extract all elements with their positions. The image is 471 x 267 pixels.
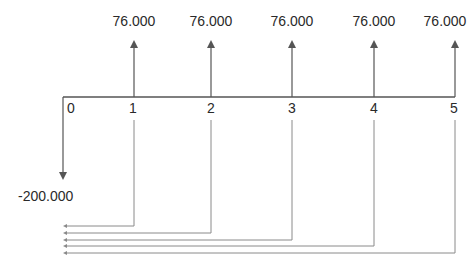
connector-arrow-icon (65, 120, 374, 246)
discount-connectors (65, 120, 455, 253)
inflow-amount-label-3: 76.000 (271, 13, 314, 29)
connector-arrow-icon (65, 120, 211, 233)
period-label-2: 2 (207, 100, 215, 116)
period-label-3: 3 (288, 100, 296, 116)
period-label-5: 5 (450, 100, 458, 116)
inflow-amount-label-1: 76.000 (113, 13, 156, 29)
cash-flow-diagram: 76.000 76.000 76.000 76.000 76.000 0 1 2… (0, 0, 471, 267)
connector-arrow-icon (65, 120, 134, 226)
inflow-amount-label-5: 76.000 (424, 13, 467, 29)
inflow-arrows (134, 44, 455, 97)
cash-flow-lines (0, 0, 471, 267)
connector-arrow-icon (65, 120, 292, 240)
inflow-amount-label-4: 76.000 (353, 13, 396, 29)
period-label-4: 4 (370, 100, 378, 116)
initial-outflow-label: -200.000 (18, 188, 73, 204)
period-label-0: 0 (67, 100, 75, 116)
period-label-1: 1 (129, 100, 137, 116)
inflow-amount-label-2: 76.000 (190, 13, 233, 29)
